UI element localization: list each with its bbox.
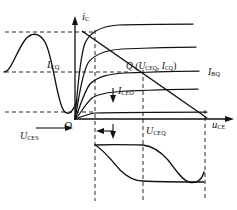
dc-load-line xyxy=(82,31,207,118)
collector-voltage-waveform-upper xyxy=(95,145,204,183)
swing-arrowhead-left xyxy=(96,128,104,134)
swing-arrowhead-down xyxy=(110,131,116,139)
uces-label: UCES xyxy=(20,131,39,141)
uceq-label: UCEQ xyxy=(146,126,166,136)
collector-voltage-waveform-lower xyxy=(95,145,204,182)
transistor-characteristic-figure: iC uCE O ICQ IBQ ICEO UCES UCEQ Q (UCEQ,… xyxy=(0,0,237,210)
dashed-guides xyxy=(5,30,205,201)
x-axis-arrowhead xyxy=(225,116,234,122)
origin-label: O xyxy=(64,120,72,131)
q-point-label: Q (UCEQ, ICQ) xyxy=(126,62,176,72)
y-axis-label: iC xyxy=(82,11,90,23)
x-axis-label: uCE xyxy=(212,120,226,131)
iceo-arrowhead xyxy=(110,95,116,103)
characteristic-curve-2 xyxy=(75,47,196,119)
collector-current-waveform xyxy=(4,34,77,113)
iceo-label: ICEO xyxy=(118,86,134,96)
y-axis-arrowhead xyxy=(72,16,78,25)
characteristic-curve-4 xyxy=(75,89,198,119)
icq-label: ICQ xyxy=(47,60,60,71)
figure-canvas xyxy=(0,0,237,210)
ibq-label: IBQ xyxy=(208,67,220,77)
